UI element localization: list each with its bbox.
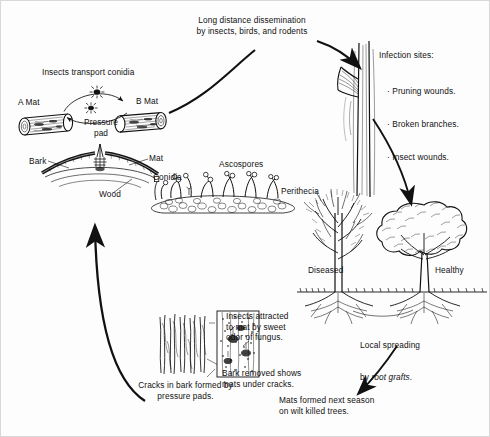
local-spreading-line1: Local spreading (360, 340, 420, 351)
arrow-cycle-left (95, 227, 145, 401)
label-perithecia: Perithecia (281, 186, 319, 197)
label-local-spreading: Local spreading by root grafts. (360, 319, 420, 404)
arrow-to-infection-site (317, 41, 359, 67)
label-mats-formed: Mats formed next season on wilt killed t… (279, 395, 374, 416)
local-spreading-emphasis: root grafts (371, 372, 409, 382)
infection-site-item: · Pruning wounds. (387, 86, 459, 97)
diseased-tree-illustration (304, 189, 373, 324)
insect-glyph (84, 86, 104, 114)
label-long-distance-dissemination: Long distance dissemination by insects, … (169, 15, 335, 36)
healthy-tree-illustration (377, 202, 467, 324)
label-mat: Mat (149, 153, 163, 164)
label-ascospores: Ascospores (219, 159, 263, 170)
pressure-pad-glyph (94, 144, 107, 171)
label-infection-sites-heading: Infection sites: (379, 50, 434, 61)
label-insects-transport-conidia: Insects transport conidia (42, 67, 134, 78)
local-spreading-prefix: by (360, 372, 371, 382)
disease-cycle-diagram: Long distance dissemination by insects, … (0, 0, 490, 437)
label-bark: Bark (29, 156, 46, 167)
label-a-mat: A Mat (18, 97, 40, 108)
label-conidia: Conidia (153, 172, 182, 183)
label-b-mat: B Mat (136, 96, 158, 107)
infection-site-item: · Broken branches. (387, 119, 459, 130)
label-wood: Wood (99, 189, 121, 200)
label-healthy: Healthy (435, 265, 464, 276)
label-infection-sites-list: · Pruning wounds. · Broken branches. · I… (387, 64, 459, 185)
infection-site-item: · Insect wounds. (387, 152, 459, 163)
local-spreading-line2: by root grafts. (360, 372, 420, 383)
bark-cross-section-illustration (42, 144, 158, 193)
ground-line (297, 288, 487, 316)
label-bark-removed: Bark removed shows mats under cracks. (222, 368, 301, 389)
label-diseased: Diseased (308, 265, 343, 276)
log-a-mat-illustration (19, 114, 73, 135)
arrow-long-distance-out (169, 50, 255, 113)
label-insects-attracted: Insects attracted to mat by sweet odor o… (226, 311, 289, 343)
local-spreading-suffix: . (410, 372, 412, 382)
label-pressure-pad: Pressure pad (77, 117, 125, 138)
